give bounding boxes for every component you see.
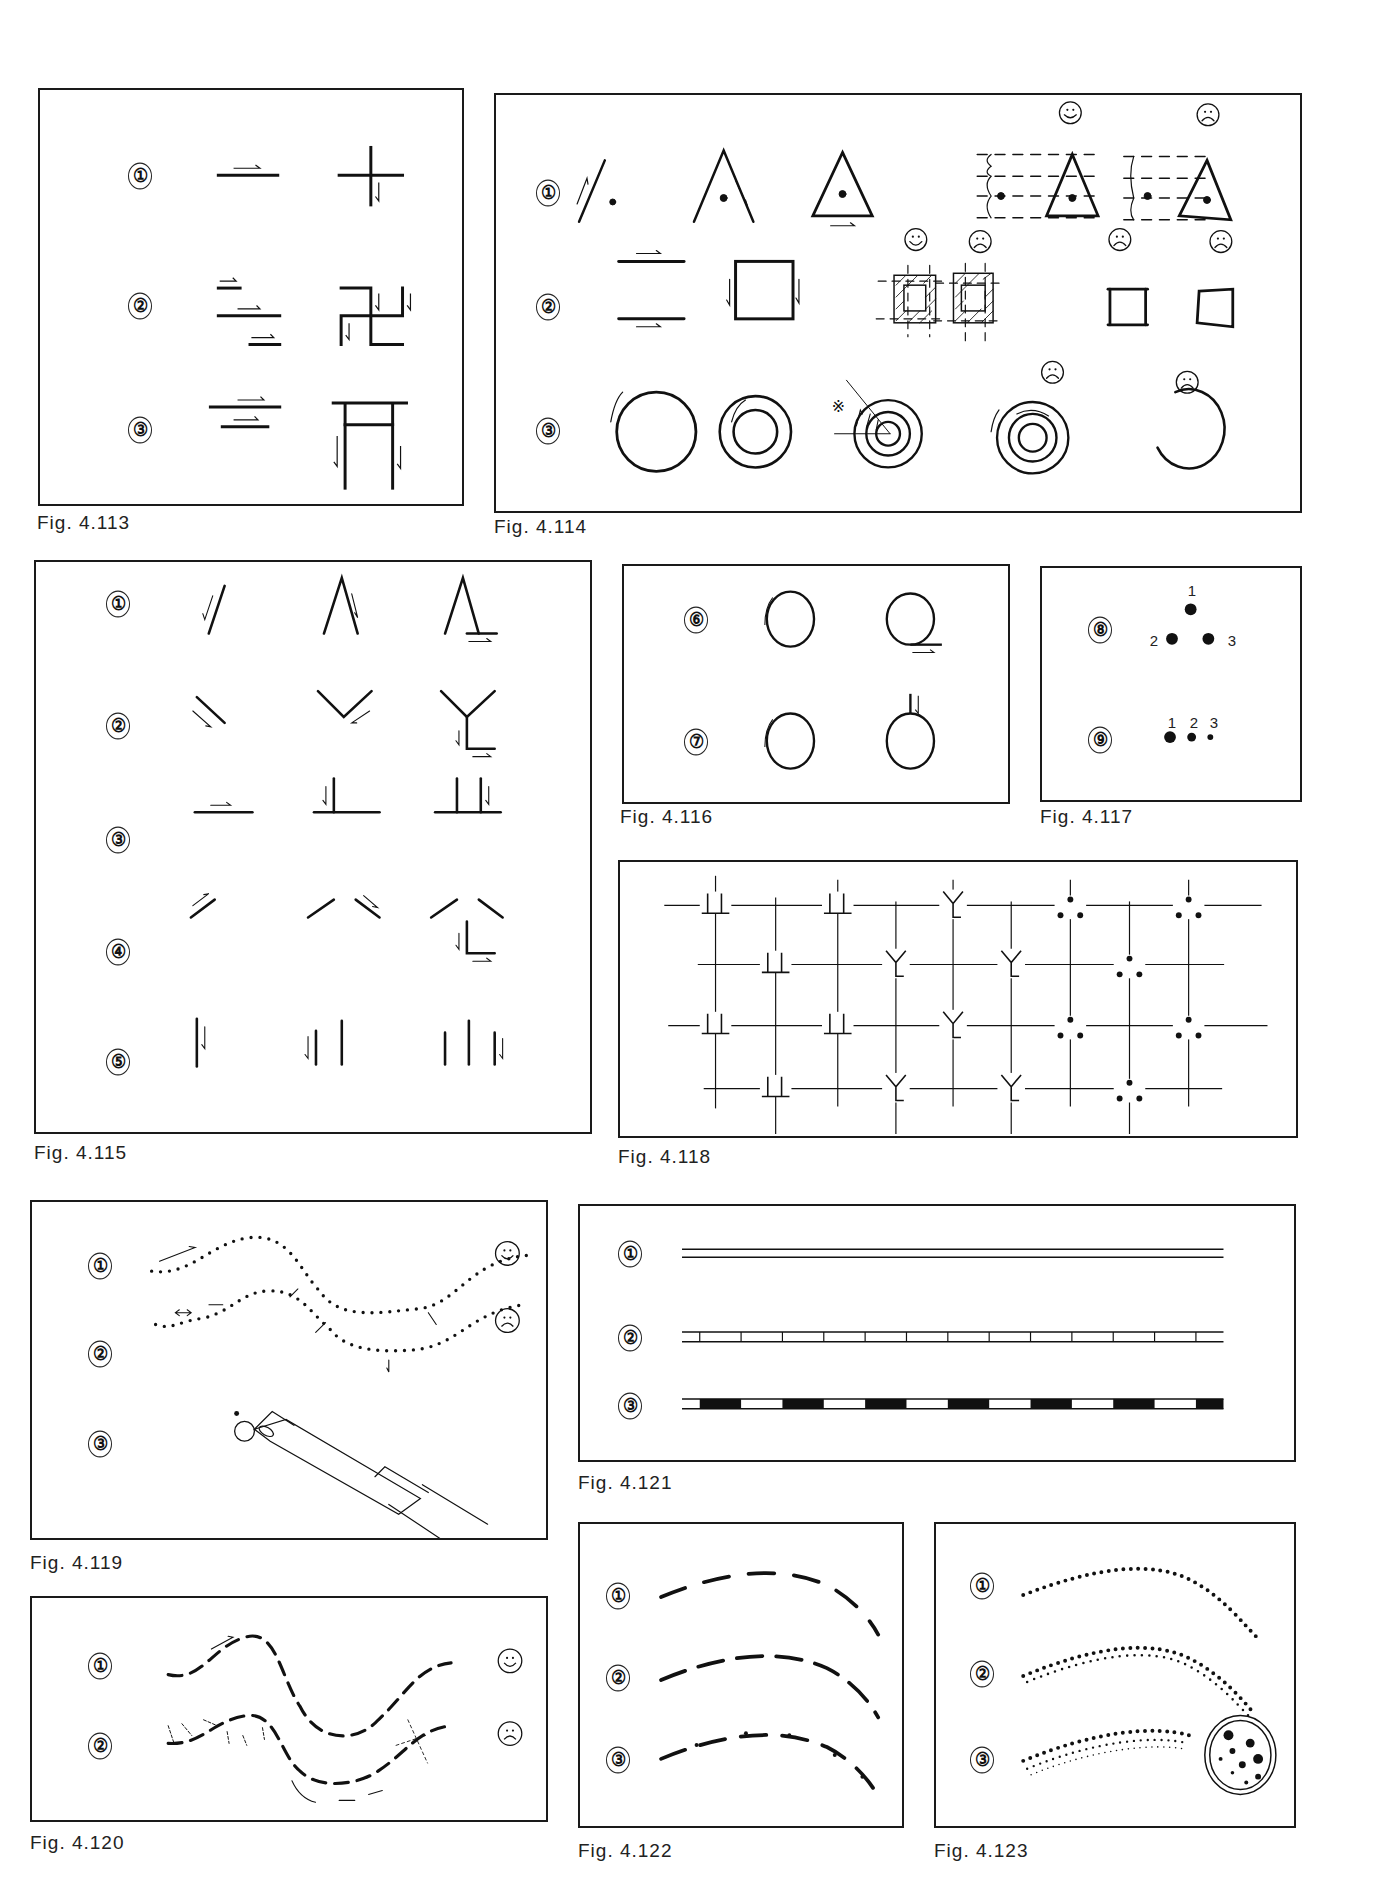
figure-4-117-panel: 1 2 3 1 2 3 ⑧ ⑨ bbox=[1040, 566, 1302, 802]
figure-4-119-panel: ① ② ③ bbox=[30, 1200, 548, 1540]
row-number-2: ② bbox=[88, 1341, 112, 1368]
figure-caption: Fig. 4.118 bbox=[618, 1146, 711, 1168]
figure-4-114-panel: ※ ① ② ③ bbox=[494, 93, 1302, 513]
figure-caption: Fig. 4.113 bbox=[37, 512, 130, 534]
figure-caption: Fig. 4.115 bbox=[34, 1142, 127, 1164]
row-number-3: ③ bbox=[606, 1747, 630, 1774]
dot-label-3: 3 bbox=[1228, 632, 1236, 649]
row-number-4: ④ bbox=[106, 939, 130, 966]
row-number-7: ⑦ bbox=[684, 729, 708, 756]
shape-stroke-diagram: ※ bbox=[496, 95, 1300, 511]
row-number-3: ③ bbox=[88, 1431, 112, 1458]
row-number-2: ② bbox=[970, 1661, 994, 1688]
dot-label-1: 1 bbox=[1188, 582, 1196, 599]
row-number-3: ③ bbox=[618, 1393, 642, 1420]
row-number-2: ② bbox=[536, 294, 560, 321]
row-number-1: ① bbox=[618, 1241, 642, 1268]
figure-caption: Fig. 4.122 bbox=[578, 1840, 673, 1862]
row-number-3: ③ bbox=[536, 418, 560, 445]
figure-caption: Fig. 4.117 bbox=[1040, 806, 1133, 828]
row-number-2: ② bbox=[128, 293, 152, 320]
dot-label-1: 1 bbox=[1168, 714, 1176, 731]
row-number-2: ② bbox=[106, 713, 130, 740]
row-number-1: ① bbox=[606, 1583, 630, 1610]
row-number-2: ② bbox=[88, 1733, 112, 1760]
row-number-2: ② bbox=[606, 1665, 630, 1692]
figure-caption: Fig. 4.114 bbox=[494, 516, 587, 538]
dot-label-2: 2 bbox=[1190, 714, 1198, 731]
dashed-line-diagram bbox=[32, 1598, 546, 1820]
row-number-5: ⑤ bbox=[106, 1049, 130, 1076]
circle-stroke-diagram bbox=[624, 566, 1008, 802]
figure-caption: Fig. 4.116 bbox=[620, 806, 713, 828]
figure-caption: Fig. 4.120 bbox=[30, 1832, 125, 1854]
figure-4-122-panel: ① ② ③ bbox=[578, 1522, 904, 1828]
row-number-1: ① bbox=[128, 163, 152, 190]
row-number-1: ① bbox=[536, 180, 560, 207]
row-number-1: ① bbox=[88, 1253, 112, 1280]
dot-order-diagram bbox=[1042, 568, 1300, 800]
figure-4-123-panel: ① ② ③ bbox=[934, 1522, 1296, 1828]
row-number-6: ⑥ bbox=[684, 607, 708, 634]
figure-caption: Fig. 4.119 bbox=[30, 1552, 123, 1574]
row-number-3: ③ bbox=[106, 827, 130, 854]
dotted-line-diagram bbox=[32, 1202, 546, 1538]
stroke-direction-diagram bbox=[40, 90, 462, 504]
figure-4-113-panel: ① ② ③ bbox=[38, 88, 464, 506]
figure-caption: Fig. 4.123 bbox=[934, 1840, 1029, 1862]
row-number-9: ⑨ bbox=[1088, 727, 1112, 754]
figure-4-115-panel: ① ② ③ ④ ⑤ bbox=[34, 560, 592, 1134]
figure-4-116-panel: ⑥ ⑦ bbox=[622, 564, 1010, 804]
double-line-diagram bbox=[580, 1206, 1294, 1460]
row-number-3: ③ bbox=[128, 417, 152, 444]
row-number-1: ① bbox=[88, 1653, 112, 1680]
reference-mark: ※ bbox=[832, 397, 845, 416]
row-number-1: ① bbox=[970, 1573, 994, 1600]
figure-4-118-panel bbox=[618, 860, 1298, 1138]
figure-caption: Fig. 4.121 bbox=[578, 1472, 673, 1494]
row-number-3: ③ bbox=[970, 1747, 994, 1774]
dot-label-3: 3 bbox=[1210, 714, 1218, 731]
figure-4-120-panel: ① ② bbox=[30, 1596, 548, 1822]
grid-pattern-diagram bbox=[620, 862, 1296, 1136]
row-number-1: ① bbox=[106, 591, 130, 618]
row-number-8: ⑧ bbox=[1088, 617, 1112, 644]
row-number-2: ② bbox=[618, 1325, 642, 1352]
dot-label-2: 2 bbox=[1150, 632, 1158, 649]
figure-4-121-panel: ① ② ③ bbox=[578, 1204, 1296, 1462]
